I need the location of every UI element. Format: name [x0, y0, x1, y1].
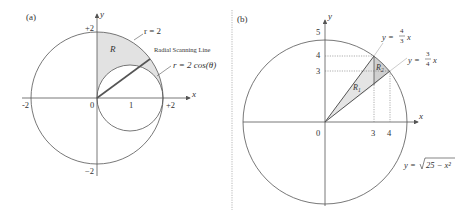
tick-x-neg2-a: -2 [22, 100, 29, 110]
svg-text:3: 3 [426, 50, 430, 58]
y-axis-label-b: y [327, 11, 332, 21]
svg-text:25 − x²: 25 − x² [426, 160, 451, 170]
svg-text:x: x [432, 55, 437, 65]
tick-y-pos2-a: +2 [85, 23, 94, 33]
tick-x4-b: 4 [387, 128, 392, 138]
equation-3-4x: y = 3 4 x [407, 50, 437, 68]
inner-circle-label: r = 2 cos(θ) [173, 60, 216, 70]
svg-text:x: x [406, 32, 411, 42]
y-axis-label-a: y [99, 9, 104, 19]
tick-x-one-a: 1 [129, 100, 133, 110]
tick-y3-b: 3 [316, 66, 320, 76]
x-axis-label-a: x [191, 89, 196, 99]
svg-text:y =: y = [407, 55, 420, 65]
figure-canvas: (a) y x +2 −2 -2 0 1 +2 R r = 2 Radial S… [0, 0, 472, 219]
tick-y-neg2-a: −2 [85, 166, 94, 176]
svg-text:4: 4 [400, 27, 404, 35]
leader-r2 [134, 34, 143, 40]
panel-b-label: (b) [237, 14, 248, 24]
tick-x-pos2-a: +2 [166, 100, 175, 110]
tick-y5-b: 5 [316, 27, 320, 37]
equation-4-3x: y = 4 3 x [381, 27, 411, 45]
panel-b: (b) y x 5 4 3 0 3 4 R1 R2 y = 4 3 x y = … [237, 11, 455, 206]
tick-x-zero-a: 0 [90, 100, 94, 110]
svg-text:3: 3 [400, 37, 404, 45]
circle-r2-label: r = 2 [144, 26, 161, 36]
line-3-4x-ext [390, 58, 407, 71]
line-4-3x-ext [374, 43, 383, 56]
region-r-label: R [109, 44, 116, 54]
tick-y4-b: 4 [316, 50, 321, 60]
x-axis-label-b: x [418, 111, 423, 121]
tick-x0-b: 0 [316, 128, 320, 138]
leader-r2cos [157, 66, 171, 76]
panel-a: (a) y x +2 −2 -2 0 1 +2 R r = 2 Radial S… [22, 9, 216, 176]
panel-a-label: (a) [26, 12, 36, 22]
svg-text:4: 4 [426, 60, 430, 68]
equation-semicircle: y = 25 − x² [403, 158, 455, 170]
radial-scanning-line-label: Radial Scanning Line [154, 46, 210, 53]
svg-text:y =: y = [403, 160, 416, 170]
svg-text:y =: y = [381, 32, 394, 42]
tick-x3-b: 3 [371, 128, 375, 138]
